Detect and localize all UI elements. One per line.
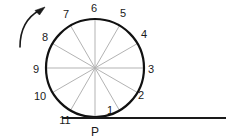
rim-number-labels: 1234567891011 bbox=[33, 2, 154, 126]
figure-canvas: 1234567891011 P bbox=[0, 0, 226, 140]
rim-label-8: 8 bbox=[42, 31, 48, 43]
contact-point-label: P bbox=[91, 125, 99, 139]
rim-label-4: 4 bbox=[141, 28, 147, 40]
rim-label-3: 3 bbox=[148, 63, 154, 75]
spoke bbox=[71, 26, 96, 68]
rim-label-6: 6 bbox=[91, 2, 97, 14]
rolling-circle-figure: 1234567891011 P bbox=[0, 0, 226, 140]
spoke bbox=[53, 44, 95, 69]
rim-label-1: 1 bbox=[107, 104, 113, 116]
rim-label-9: 9 bbox=[33, 63, 39, 75]
spoke bbox=[53, 68, 95, 93]
rim-label-11: 11 bbox=[59, 114, 70, 126]
rim-label-2: 2 bbox=[138, 89, 144, 101]
spoke bbox=[95, 44, 137, 69]
spoke bbox=[95, 68, 137, 93]
rim-label-5: 5 bbox=[120, 7, 126, 19]
spoke bbox=[95, 26, 120, 68]
rim-label-7: 7 bbox=[63, 8, 69, 20]
rim-label-10: 10 bbox=[34, 90, 46, 102]
spoke bbox=[71, 68, 96, 110]
